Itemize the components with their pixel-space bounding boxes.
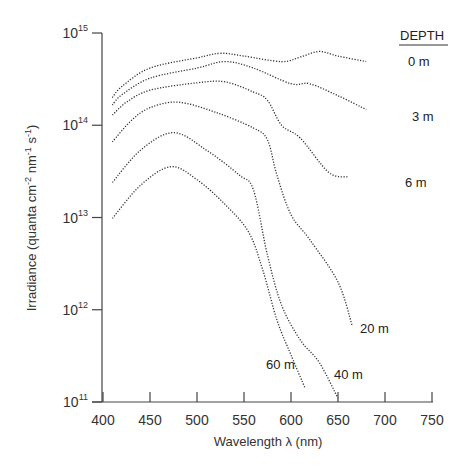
curve-label: 40 m [334,367,363,382]
curve-3-m [112,62,366,110]
y-tick-label: 1013 [62,208,88,226]
x-axis-title: Wavelength λ (nm) [214,434,323,449]
x-tick-label: 600 [279,412,303,428]
x-tick-label: 500 [185,412,209,428]
curves [112,51,366,398]
y-tick-label: 1015 [62,23,88,41]
curve-40-m [112,133,338,399]
x-tick-label: 700 [373,412,397,428]
x-tick-label: 550 [232,412,256,428]
curve-60-m [112,167,305,388]
curve-label: 3 m [412,109,434,124]
curve-label: 0 m [408,54,430,69]
x-tick-label: 400 [91,412,115,428]
y-tick-label: 1014 [62,115,88,133]
legend: DEPTH [399,28,448,45]
x-tick-label: 750 [420,412,444,428]
irradiance-chart: 1015101410131012101140045050055060065070… [0,0,465,470]
curve-labels: 0 m3 m6 m20 m40 m60 m [266,54,434,382]
curve-label: 6 m [405,175,427,190]
y-tick-label: 1011 [63,392,88,410]
y-tick-label: 1012 [62,300,88,318]
x-tick-label: 450 [138,412,162,428]
x-tick-label: 650 [326,412,350,428]
legend-title: DEPTH [400,28,444,43]
axes: 1015101410131012101140045050055060065070… [23,23,444,449]
curve-label: 20 m [360,321,389,336]
y-axis-title: Irradiance (quanta cm-2 nm-1 s-1) [23,125,39,312]
curve-label: 60 m [266,357,295,372]
curve-6-m [112,81,347,177]
curve-0-m [112,51,366,97]
curve-20-m [112,102,352,325]
